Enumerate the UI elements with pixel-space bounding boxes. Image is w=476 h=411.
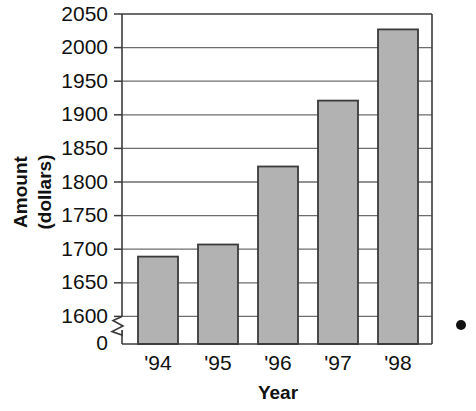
ytick-label-1750: 1750	[61, 203, 108, 226]
bar-95	[198, 245, 238, 345]
ytick-label-1900: 1900	[61, 102, 108, 125]
xtick-label-97: '97	[324, 351, 351, 374]
ytick-label-1650: 1650	[61, 270, 108, 293]
ytick-label-2000: 2000	[61, 35, 108, 58]
xtick-label-94: '94	[144, 351, 172, 374]
x-axis-title: Year	[258, 382, 299, 403]
xtick-label-95: '95	[204, 351, 231, 374]
bar-97	[318, 101, 358, 344]
bar-94	[138, 257, 178, 344]
y-axis-title-line1: Amount	[10, 155, 31, 227]
bar-98	[378, 29, 418, 344]
ytick-label-1950: 1950	[61, 69, 108, 92]
ytick-label-1850: 1850	[61, 136, 108, 159]
y-tick-marks	[114, 14, 122, 316]
y-axis-break-icon	[112, 316, 123, 335]
ytick-label-1800: 1800	[61, 170, 108, 193]
ytick-label-zero: 0	[96, 331, 108, 354]
ytick-label-2050: 2050	[61, 2, 108, 25]
xtick-label-96: '96	[264, 351, 291, 374]
bar-96	[258, 167, 298, 345]
xtick-label-98: '98	[384, 351, 411, 374]
ytick-label-1700: 1700	[61, 237, 108, 260]
chart-canvas: 2050 2000 1950 1900 1850 1800 1750 1700 …	[0, 0, 476, 411]
bullet-marker-icon	[456, 320, 466, 330]
bar-chart-figure: 2050 2000 1950 1900 1850 1800 1750 1700 …	[0, 0, 476, 411]
ytick-label-1600: 1600	[61, 304, 108, 327]
y-axis-title-line2: (dollars)	[34, 155, 55, 230]
